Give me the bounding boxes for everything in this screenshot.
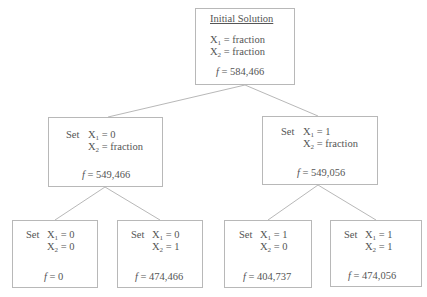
set-label: Set	[344, 229, 357, 241]
x1-line: X1 = 1	[303, 126, 331, 138]
x1-line: X1 = 0	[152, 229, 180, 241]
objective-value: f = 474,056	[348, 270, 396, 282]
edge-n1-n3	[55, 187, 105, 220]
objective-value: f = 0	[44, 271, 63, 283]
set-label: Set	[66, 129, 79, 141]
edge-root-n2	[245, 85, 318, 116]
objective-value: f = 584,466	[216, 66, 264, 78]
edge-n1-n4	[105, 187, 160, 220]
x2-line: X2 = 1	[365, 241, 393, 253]
edge-n2-n5	[268, 185, 318, 220]
node-x1-1: Set X1 = 1 X2 = fraction f = 549,056	[262, 116, 378, 185]
node-x1-0-x2-1: Set X1 = 0 X2 = 1 f = 474,466	[117, 220, 203, 288]
objective-value: f = 474,466	[135, 271, 183, 283]
node-title: Initial Solution	[210, 13, 273, 25]
x2-line: X2 = 0	[47, 241, 75, 253]
x1-line: X1 = 1	[365, 229, 393, 241]
x2-line: X2 = 1	[152, 241, 180, 253]
node-initial-solution: Initial Solution X1 = fraction X2 = frac…	[195, 8, 295, 85]
edge-n2-n6	[318, 185, 376, 220]
node-x1-1-x2-0: Set X1 = 1 X2 = 0 f = 404,737	[224, 220, 312, 288]
x1-line: X1 = 0	[47, 229, 75, 241]
x2-line: X2 = fraction	[88, 141, 143, 153]
set-label: Set	[239, 229, 252, 241]
x2-line: X2 = fraction	[303, 138, 358, 150]
x2-line: X2 = 0	[260, 241, 288, 253]
x1-line: X1 = 1	[260, 229, 288, 241]
set-label: Set	[131, 229, 144, 241]
node-x1-1-x2-1: Set X1 = 1 X2 = 1 f = 474,056	[330, 220, 422, 287]
objective-value: f = 404,737	[243, 271, 291, 283]
edge-root-n1	[108, 85, 245, 117]
set-label: Set	[26, 229, 39, 241]
x1-line: X1 = fraction	[210, 34, 265, 46]
set-label: Set	[281, 126, 294, 138]
node-x1-0-x2-0: Set X1 = 0 X2 = 0 f = 0	[12, 220, 98, 288]
x2-line: X2 = fraction	[210, 46, 265, 58]
objective-value: f = 549,056	[297, 167, 345, 179]
node-x1-0: Set X1 = 0 X2 = fraction f = 549,466	[48, 117, 163, 187]
x1-line: X1 = 0	[88, 129, 116, 141]
objective-value: f = 549,466	[82, 169, 130, 181]
